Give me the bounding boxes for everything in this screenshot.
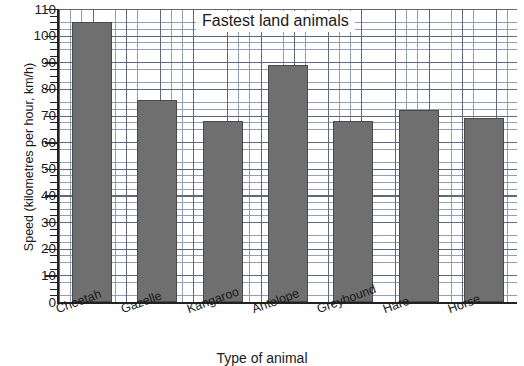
bar	[333, 121, 373, 302]
x-axis-category-labels: CheetahGazelleKangarooAntelopeGreyhoundH…	[57, 303, 515, 351]
bar	[72, 22, 112, 302]
bar	[399, 110, 439, 302]
bar	[464, 118, 504, 302]
bar	[137, 100, 177, 302]
bars-layer	[59, 9, 517, 302]
bar	[268, 65, 308, 302]
plot-area	[57, 9, 517, 304]
bar	[203, 121, 243, 302]
chart-title: Fastest land animals	[196, 11, 355, 32]
x-axis-title: Type of animal	[0, 350, 524, 366]
